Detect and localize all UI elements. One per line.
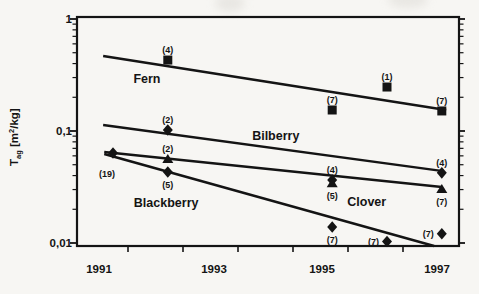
y-axis-title: Tag [m2/kg] xyxy=(7,108,23,166)
clover-count-label: (7) xyxy=(436,197,447,207)
fern-count-label: (7) xyxy=(327,95,338,105)
blackberry-count-label: (7) xyxy=(368,237,379,247)
bilberry-count-label: (4) xyxy=(327,165,338,175)
bilberry-count-label: (4) xyxy=(436,158,447,168)
clover-count-label: (5) xyxy=(327,191,338,201)
series-label-fern: Fern xyxy=(133,72,160,86)
fern-point xyxy=(163,56,172,65)
fern-point xyxy=(328,105,337,114)
bilberry-count-label: (2) xyxy=(162,115,173,125)
x-tick-label-1993: 1993 xyxy=(201,263,227,275)
fern-point xyxy=(383,83,392,92)
x-tick-label-1995: 1995 xyxy=(309,263,335,275)
fern-count-label: (4) xyxy=(162,45,173,55)
blackberry-count-label: (5) xyxy=(162,180,173,190)
taq-chart: (4)(7)(1)(7)(2)(4)(4)(2)(5)(7)(19)(5)(7)… xyxy=(0,0,479,294)
blackberry-point xyxy=(437,228,447,240)
blackberry-point xyxy=(163,166,173,178)
figure-container: (4)(7)(1)(7)(2)(4)(4)(2)(5)(7)(19)(5)(7)… xyxy=(0,0,479,294)
series-label-blackberry: Blackberry xyxy=(134,196,199,210)
blackberry-count-label: (7) xyxy=(423,229,434,239)
x-tick-label-1997: 1997 xyxy=(424,263,450,275)
fern-point xyxy=(437,106,446,115)
blackberry-count-label: (7) xyxy=(327,235,338,245)
blackberry-point xyxy=(327,221,337,233)
fern-count-label: (1) xyxy=(382,72,393,82)
bilberry-point xyxy=(437,167,447,179)
series-label-clover: Clover xyxy=(347,195,386,209)
blackberry-count-label: (19) xyxy=(99,169,115,179)
trend-line-clover xyxy=(104,152,442,187)
clover-count-label: (2) xyxy=(162,144,173,154)
clover-point xyxy=(436,184,447,193)
y-tick-label-0_01: 0,01 xyxy=(50,237,73,249)
series-label-bilberry: Bilberry xyxy=(252,129,299,143)
y-tick-label-1: 1 xyxy=(66,13,73,25)
y-tick-label-0_1: 0,1 xyxy=(56,125,73,137)
x-tick-label-1991: 1991 xyxy=(86,263,112,275)
fern-count-label: (7) xyxy=(436,96,447,106)
